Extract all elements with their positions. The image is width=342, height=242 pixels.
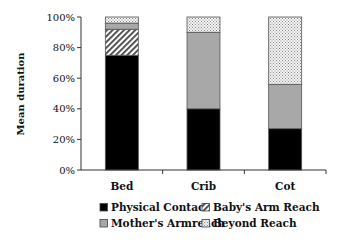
bar-bed (105, 17, 138, 170)
bar-segment-physical-contact (105, 55, 138, 170)
bars (105, 17, 301, 170)
legend-label: Physical Contact (111, 201, 209, 213)
y-axis: 0%20%40%60%80%100% (46, 12, 81, 176)
legend-swatch-icon (100, 204, 108, 212)
bar-segment-physical-contact (187, 109, 220, 170)
y-axis-label: Mean duration (15, 52, 26, 136)
legend-swatch-icon (202, 220, 210, 228)
bar-segment-baby-s-arm-reach (105, 29, 138, 55)
legend-item: Beyond Reach (202, 217, 297, 229)
legend-item: Physical Contact (100, 201, 209, 213)
stacked-bar-chart: Mean duration 0%20%40%60%80%100% BedCrib… (0, 0, 342, 242)
legend-swatch-icon (202, 204, 210, 212)
legend-item: Baby's Arm Reach (202, 201, 320, 213)
bar-segment-beyond-reach (187, 17, 220, 32)
x-category-label: Bed (110, 180, 134, 192)
bar-cot (269, 17, 302, 170)
y-tick-label: 40% (53, 103, 75, 114)
y-tick-label: 20% (53, 134, 75, 145)
bar-segment-mother-s-armreach (269, 84, 302, 128)
legend: Physical ContactBaby's Arm ReachMother's… (100, 201, 320, 229)
y-tick-label: 0% (59, 165, 75, 176)
bar-crib (187, 17, 220, 170)
legend-label: Beyond Reach (213, 217, 297, 229)
legend-label: Baby's Arm Reach (213, 201, 320, 213)
legend-swatch-icon (100, 220, 108, 228)
x-category-label: Cot (275, 180, 295, 192)
bar-segment-physical-contact (269, 129, 302, 170)
y-tick-label: 60% (53, 73, 75, 84)
y-tick-label: 80% (53, 42, 75, 53)
bar-segment-beyond-reach (105, 17, 138, 23)
y-tick-label: 100% (46, 12, 75, 23)
bar-segment-mother-s-armreach (105, 23, 138, 29)
x-axis: BedCribCot (81, 170, 326, 192)
x-category-label: Crib (191, 180, 216, 192)
bar-segment-mother-s-armreach (187, 32, 220, 109)
bar-segment-beyond-reach (269, 17, 302, 84)
